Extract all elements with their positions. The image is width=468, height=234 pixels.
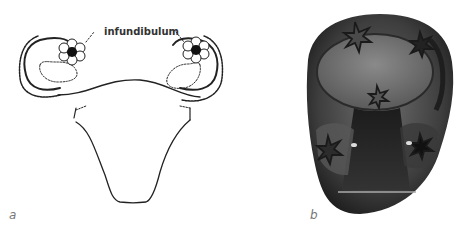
right-fimbriae-icon <box>183 37 209 63</box>
panel-a-uterus-drawing: infundibulum a <box>0 0 240 234</box>
panel-b-carved-stone: b <box>250 0 468 234</box>
panel-letter-b: b <box>310 208 318 222</box>
infundibulum-label: infundibulum <box>104 26 179 37</box>
panel-letter-a: a <box>9 208 16 222</box>
carved-stone-image <box>250 0 468 234</box>
left-fimbriae-icon <box>59 39 85 65</box>
